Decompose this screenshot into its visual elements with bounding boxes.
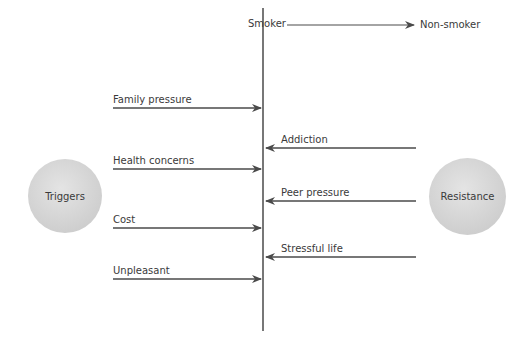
triggers-label: Triggers [45,191,85,202]
trigger-health-concerns-label: Health concerns [113,155,194,167]
trigger-family-pressure-label: Family pressure [113,94,192,106]
resistance-addiction-label: Addiction [281,134,328,146]
resistance-peer-pressure-label: Peer pressure [281,187,349,199]
resistance-stressful-life-label: Stressful life [281,243,343,255]
resistance-label: Resistance [441,191,495,202]
trigger-cost-label: Cost [113,214,135,226]
trigger-unpleasant-label: Unpleasant [113,265,170,277]
smoker-label: Smoker [248,18,286,30]
triggers-node: Triggers [28,159,102,233]
resistance-node: Resistance [429,158,506,235]
non-smoker-label: Non-smoker [420,19,480,31]
